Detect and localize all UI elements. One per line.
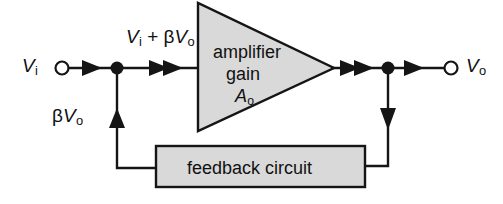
output-flow-arrow-icon [404, 60, 424, 76]
amplifier-label-line1: amplifier [213, 43, 281, 61]
summing-node-dot [111, 62, 124, 75]
feedback-return-wire [117, 68, 157, 168]
input-terminal-label: Vi [22, 56, 38, 75]
feedback-signal-label: βVo [52, 106, 83, 125]
feedback-amplifier-diagram: Vi Vo Vi + βVo βVo amplifier gain Ao fee… [0, 0, 503, 204]
amplifier-input-flow-arrow-icon-2 [163, 60, 183, 76]
amplifier-output-flow-arrow-icon-2 [354, 60, 374, 76]
feedback-sample-arrow-icon [380, 108, 396, 130]
feedback-circuit-label: feedback circuit [187, 159, 312, 177]
input-terminal-circle [56, 62, 69, 75]
input-flow-arrow-icon [82, 60, 102, 76]
summing-expression-label: Vi + βVo [126, 27, 195, 46]
amplifier-label-line2: gain [226, 65, 260, 83]
amplifier-triangle-block [198, 3, 334, 131]
amplifier-gain-symbol-label: Ao [235, 87, 254, 105]
output-tap-node-dot [382, 62, 395, 75]
output-terminal-label: Vo [466, 56, 486, 75]
output-terminal-circle [445, 62, 458, 75]
feedback-return-arrow-icon [109, 108, 125, 128]
